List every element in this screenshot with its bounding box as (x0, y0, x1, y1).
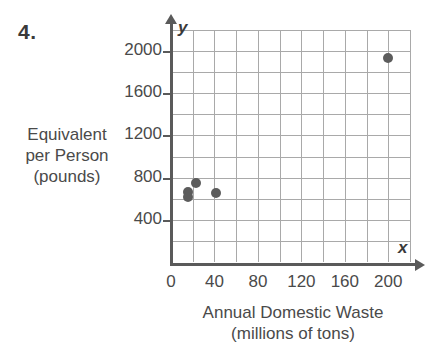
y-tick-label: 1200 (106, 124, 162, 144)
y-tick-label: 400 (106, 209, 162, 229)
grid-line-vertical (410, 30, 411, 262)
grid-line-horizontal (171, 114, 410, 115)
grid-line-horizontal (171, 72, 410, 73)
y-axis-variable-label: y (178, 18, 187, 38)
grid-line-horizontal (171, 199, 410, 200)
y-tick-label: 1600 (106, 82, 162, 102)
x-tick-label: 0 (148, 272, 194, 292)
x-tick-label: 200 (365, 272, 411, 292)
x-tick-label: 80 (235, 272, 281, 292)
data-point (191, 178, 201, 188)
data-point (183, 192, 193, 202)
y-tick-label-group: 400800120016002000 (100, 0, 162, 354)
x-axis-title: Annual Domestic Waste (millions of tons) (160, 302, 426, 344)
grid-line-vertical (193, 30, 194, 262)
grid-line-horizontal (171, 30, 410, 31)
problem-number: 4. (18, 20, 37, 44)
grid-line-vertical (280, 30, 281, 262)
grid-line-vertical (367, 30, 368, 262)
x-tick-label: 160 (322, 272, 368, 292)
y-tick-label: 2000 (106, 40, 162, 60)
y-axis-line (170, 22, 173, 266)
grid-line-vertical (323, 30, 324, 262)
grid-line-vertical (236, 30, 237, 262)
grid-line-horizontal (171, 135, 410, 136)
grid-line-horizontal (171, 178, 410, 179)
grid-line-horizontal (171, 157, 410, 158)
y-tick-mark (163, 178, 171, 180)
grid-line-vertical (258, 30, 259, 262)
data-point (211, 188, 221, 198)
x-axis-title-units: (millions of tons) (160, 323, 426, 344)
y-tick-mark (163, 220, 171, 222)
y-axis-arrowhead-icon (165, 14, 177, 24)
grid-line-vertical (388, 30, 389, 262)
x-tick-label: 40 (191, 272, 237, 292)
x-axis-title-line-1: Annual Domestic Waste (160, 302, 426, 323)
y-tick-mark (163, 93, 171, 95)
y-tick-mark (163, 135, 171, 137)
x-axis-variable-label: x (398, 238, 407, 258)
y-tick-mark (163, 51, 171, 53)
grid-line-vertical (301, 30, 302, 262)
data-point (383, 53, 393, 63)
x-axis-line (170, 263, 418, 266)
grid-line-horizontal (171, 241, 410, 242)
grid-line-horizontal (171, 220, 410, 221)
y-tick-label: 800 (106, 167, 162, 187)
plot-area (171, 30, 410, 262)
grid-line-horizontal (171, 93, 410, 94)
grid-line-vertical (345, 30, 346, 262)
grid-line-vertical (214, 30, 215, 262)
x-axis-arrowhead-icon (415, 259, 425, 271)
x-tick-label: 120 (278, 272, 324, 292)
grid-line-horizontal (171, 51, 410, 52)
